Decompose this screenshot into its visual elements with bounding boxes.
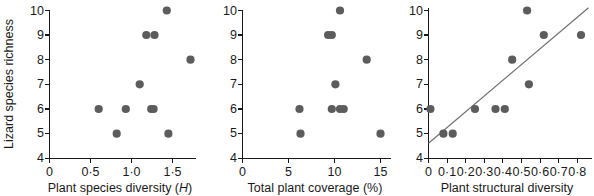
x-tick-label: 0·8	[568, 165, 586, 179]
data-point	[540, 31, 548, 39]
data-points	[95, 6, 195, 137]
data-point	[150, 31, 158, 39]
y-ticks	[45, 11, 50, 159]
y-tick-label: 5	[416, 126, 423, 140]
x-ticks	[50, 159, 173, 164]
data-point	[328, 31, 336, 39]
data-point	[163, 6, 171, 14]
data-point	[113, 130, 121, 138]
x-tick-label: 0·5	[512, 165, 530, 179]
data-point	[95, 105, 103, 113]
data-point	[501, 105, 509, 113]
x-axis-title: Plant structural diversity	[441, 181, 574, 195]
x-tick-label: 0·5	[81, 165, 99, 179]
panel-1-svg: Lizard species richness 10 9 8 7 6 5 4	[0, 0, 200, 196]
data-point	[577, 31, 585, 39]
y-tick-label: 10	[223, 4, 237, 18]
data-points	[426, 6, 585, 137]
panel-2-svg: 10 9 8 7 6 5 4	[197, 0, 395, 196]
figure-container: Lizard species richness 10 9 8 7 6 5 4	[0, 0, 594, 196]
y-tick-label: 6	[37, 102, 44, 116]
axis-lines	[243, 10, 392, 159]
y-tick-label: 4	[416, 151, 423, 165]
y-tick-labels: 10 9 8 7 6 5 4	[30, 4, 44, 165]
y-tick-label: 7	[230, 77, 237, 91]
y-tick-label: 5	[230, 126, 237, 140]
data-point	[296, 130, 304, 138]
y-tick-label: 6	[416, 102, 423, 116]
y-ticks	[238, 11, 243, 159]
data-point	[376, 130, 384, 138]
axis-lines	[50, 10, 197, 159]
data-point	[295, 105, 303, 113]
y-tick-label: 7	[416, 77, 423, 91]
x-tick-label: 0·3	[475, 165, 493, 179]
data-point	[142, 31, 150, 39]
x-tick-label: 0	[46, 165, 53, 179]
panel-plant-species-diversity: Lizard species richness 10 9 8 7 6 5 4	[0, 0, 200, 196]
y-tick-label: 8	[230, 53, 237, 67]
y-tick-labels: 10 9 8 7 6 5 4	[223, 4, 237, 165]
x-tick-label: 0	[239, 165, 246, 179]
panel-3-svg: 10 9 8 7 6 5 4	[393, 0, 594, 196]
x-tick-label: 1·5	[163, 165, 181, 179]
x-tick-label: 1·0	[122, 165, 140, 179]
y-tick-label: 9	[416, 28, 423, 42]
y-tick-label: 4	[230, 151, 237, 165]
y-tick-label: 10	[409, 4, 423, 18]
data-point	[164, 130, 172, 138]
x-tick-label: 5	[285, 165, 292, 179]
panel-plant-structural-diversity: 10 9 8 7 6 5 4	[393, 0, 594, 196]
y-tick-label: 6	[230, 102, 237, 116]
x-axis-title: Plant species diversity (H)	[48, 181, 193, 195]
data-point	[439, 130, 447, 138]
data-point	[508, 56, 516, 64]
data-point	[340, 105, 348, 113]
y-tick-labels: 10 9 8 7 6 5 4	[409, 4, 423, 165]
data-point	[122, 105, 130, 113]
data-point	[136, 80, 144, 88]
x-tick-label: 0	[425, 165, 432, 179]
data-point	[150, 105, 158, 113]
x-tick-labels: 0 0·1 0·2 0·3 0·4 0·5 0·6 0·7 0·8	[425, 165, 586, 179]
y-tick-label: 4	[37, 151, 44, 165]
y-tick-label: 9	[230, 28, 237, 42]
x-axis-title-tail: )	[188, 181, 192, 195]
data-point	[471, 105, 479, 113]
data-point	[491, 105, 499, 113]
panel-total-plant-coverage: 10 9 8 7 6 5 4	[197, 0, 395, 196]
y-tick-label: 7	[37, 77, 44, 91]
x-tick-label: 15	[374, 165, 388, 179]
x-tick-label: 0·7	[550, 165, 568, 179]
x-axis-title: Total plant coverage (%)	[248, 181, 383, 195]
data-point	[426, 105, 434, 113]
x-tick-label: 0·2	[457, 165, 475, 179]
y-ticks	[424, 11, 429, 159]
x-axis-title-main: Plant species diversity (	[48, 181, 180, 195]
x-ticks	[243, 159, 381, 164]
data-point	[363, 56, 371, 64]
data-point	[523, 6, 531, 14]
y-tick-label: 8	[416, 53, 423, 67]
data-point	[449, 130, 457, 138]
y-tick-label: 5	[37, 126, 44, 140]
x-ticks	[429, 159, 578, 164]
x-tick-labels: 0 0·5 1·0 1·5	[46, 165, 182, 179]
data-points	[295, 6, 384, 137]
x-tick-label: 0·6	[531, 165, 549, 179]
regression-line	[429, 8, 589, 144]
y-tick-label: 9	[37, 28, 44, 42]
data-point	[331, 80, 339, 88]
data-point	[336, 6, 344, 14]
x-tick-label: 0·4	[494, 165, 512, 179]
x-tick-label: 10	[328, 165, 342, 179]
y-tick-label: 10	[30, 4, 44, 18]
y-tick-label: 8	[37, 53, 44, 67]
x-tick-label: 0·1	[438, 165, 456, 179]
y-axis-title: Lizard species richness	[2, 19, 16, 149]
x-tick-labels: 0 5 10 15	[239, 165, 387, 179]
data-point	[328, 105, 336, 113]
data-point	[186, 56, 194, 64]
data-point	[525, 80, 533, 88]
